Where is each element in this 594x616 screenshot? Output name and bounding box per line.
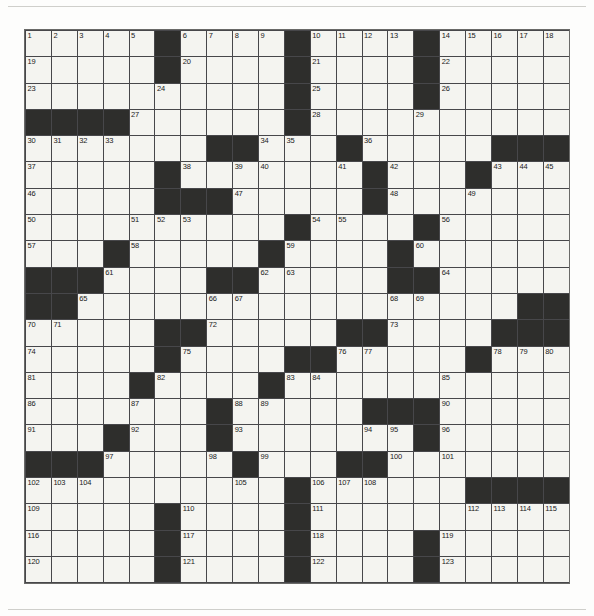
crossword-letter-cell[interactable] <box>440 346 466 372</box>
crossword-letter-cell[interactable] <box>181 451 207 477</box>
crossword-letter-cell[interactable] <box>233 83 259 109</box>
crossword-letter-cell[interactable]: 34 <box>259 136 285 162</box>
crossword-letter-cell[interactable]: 24 <box>155 83 181 109</box>
crossword-letter-cell[interactable] <box>543 215 569 241</box>
crossword-letter-cell[interactable]: 123 <box>440 556 466 582</box>
crossword-letter-cell[interactable] <box>259 83 285 109</box>
crossword-letter-cell[interactable]: 73 <box>388 320 414 346</box>
crossword-letter-cell[interactable] <box>233 57 259 83</box>
crossword-letter-cell[interactable] <box>517 215 543 241</box>
crossword-letter-cell[interactable]: 62 <box>259 267 285 293</box>
crossword-letter-cell[interactable]: 28 <box>310 109 336 135</box>
crossword-letter-cell[interactable]: 37 <box>26 162 52 188</box>
crossword-letter-cell[interactable]: 115 <box>543 504 569 530</box>
crossword-letter-cell[interactable]: 19 <box>26 57 52 83</box>
crossword-letter-cell[interactable] <box>414 320 440 346</box>
crossword-letter-cell[interactable]: 55 <box>336 215 362 241</box>
crossword-letter-cell[interactable]: 27 <box>129 109 155 135</box>
crossword-letter-cell[interactable] <box>466 425 492 451</box>
crossword-letter-cell[interactable] <box>284 293 310 319</box>
crossword-letter-cell[interactable] <box>336 267 362 293</box>
crossword-letter-cell[interactable] <box>362 293 388 319</box>
crossword-letter-cell[interactable] <box>517 188 543 214</box>
crossword-letter-cell[interactable] <box>103 320 129 346</box>
crossword-letter-cell[interactable]: 112 <box>466 504 492 530</box>
crossword-letter-cell[interactable] <box>543 530 569 556</box>
crossword-letter-cell[interactable] <box>440 241 466 267</box>
crossword-letter-cell[interactable] <box>362 267 388 293</box>
crossword-letter-cell[interactable] <box>259 556 285 582</box>
crossword-letter-cell[interactable]: 46 <box>26 188 52 214</box>
crossword-letter-cell[interactable] <box>103 478 129 504</box>
crossword-letter-cell[interactable]: 113 <box>492 504 518 530</box>
crossword-letter-cell[interactable] <box>336 188 362 214</box>
crossword-letter-cell[interactable]: 76 <box>336 346 362 372</box>
crossword-letter-cell[interactable] <box>336 57 362 83</box>
crossword-letter-cell[interactable]: 22 <box>440 57 466 83</box>
crossword-letter-cell[interactable] <box>259 346 285 372</box>
crossword-letter-cell[interactable] <box>259 478 285 504</box>
crossword-letter-cell[interactable]: 20 <box>181 57 207 83</box>
crossword-letter-cell[interactable] <box>492 399 518 425</box>
crossword-letter-cell[interactable]: 33 <box>103 136 129 162</box>
crossword-letter-cell[interactable] <box>466 556 492 582</box>
crossword-letter-cell[interactable]: 25 <box>310 83 336 109</box>
crossword-letter-cell[interactable] <box>77 346 103 372</box>
crossword-letter-cell[interactable] <box>336 241 362 267</box>
crossword-letter-cell[interactable]: 70 <box>26 320 52 346</box>
crossword-letter-cell[interactable] <box>181 83 207 109</box>
crossword-letter-cell[interactable] <box>181 399 207 425</box>
crossword-letter-cell[interactable] <box>77 162 103 188</box>
crossword-letter-cell[interactable]: 80 <box>543 346 569 372</box>
crossword-letter-cell[interactable]: 96 <box>440 425 466 451</box>
crossword-letter-cell[interactable] <box>543 556 569 582</box>
crossword-letter-cell[interactable] <box>259 57 285 83</box>
crossword-letter-cell[interactable]: 71 <box>51 320 77 346</box>
crossword-letter-cell[interactable] <box>517 425 543 451</box>
crossword-letter-cell[interactable] <box>259 188 285 214</box>
crossword-letter-cell[interactable] <box>129 136 155 162</box>
crossword-letter-cell[interactable] <box>388 372 414 398</box>
crossword-letter-cell[interactable] <box>155 241 181 267</box>
crossword-letter-cell[interactable]: 52 <box>155 215 181 241</box>
crossword-letter-cell[interactable]: 67 <box>233 293 259 319</box>
crossword-letter-cell[interactable] <box>103 399 129 425</box>
crossword-letter-cell[interactable]: 117 <box>181 530 207 556</box>
crossword-letter-cell[interactable] <box>310 136 336 162</box>
crossword-letter-cell[interactable] <box>51 162 77 188</box>
crossword-letter-cell[interactable]: 64 <box>440 267 466 293</box>
crossword-letter-cell[interactable] <box>336 83 362 109</box>
crossword-letter-cell[interactable]: 51 <box>129 215 155 241</box>
crossword-letter-cell[interactable]: 94 <box>362 425 388 451</box>
crossword-letter-cell[interactable]: 111 <box>310 504 336 530</box>
crossword-letter-cell[interactable]: 61 <box>103 267 129 293</box>
crossword-letter-cell[interactable] <box>440 109 466 135</box>
crossword-letter-cell[interactable] <box>492 215 518 241</box>
crossword-letter-cell[interactable] <box>77 425 103 451</box>
crossword-letter-cell[interactable]: 120 <box>26 556 52 582</box>
crossword-letter-cell[interactable] <box>543 57 569 83</box>
crossword-letter-cell[interactable]: 47 <box>233 188 259 214</box>
crossword-letter-cell[interactable] <box>129 83 155 109</box>
crossword-letter-cell[interactable] <box>310 451 336 477</box>
crossword-letter-cell[interactable] <box>517 267 543 293</box>
crossword-letter-cell[interactable] <box>492 57 518 83</box>
crossword-letter-cell[interactable] <box>362 109 388 135</box>
crossword-letter-cell[interactable]: 83 <box>284 372 310 398</box>
crossword-letter-cell[interactable] <box>517 451 543 477</box>
crossword-letter-cell[interactable] <box>543 399 569 425</box>
crossword-letter-cell[interactable] <box>233 504 259 530</box>
crossword-letter-cell[interactable]: 97 <box>103 451 129 477</box>
crossword-letter-cell[interactable]: 65 <box>77 293 103 319</box>
crossword-letter-cell[interactable]: 102 <box>26 478 52 504</box>
crossword-letter-cell[interactable] <box>543 425 569 451</box>
crossword-letter-cell[interactable] <box>77 504 103 530</box>
crossword-letter-cell[interactable]: 44 <box>517 162 543 188</box>
crossword-letter-cell[interactable] <box>440 478 466 504</box>
crossword-letter-cell[interactable]: 49 <box>466 188 492 214</box>
crossword-letter-cell[interactable] <box>414 188 440 214</box>
crossword-letter-cell[interactable]: 18 <box>543 31 569 57</box>
crossword-letter-cell[interactable] <box>336 399 362 425</box>
crossword-letter-cell[interactable]: 48 <box>388 188 414 214</box>
crossword-letter-cell[interactable] <box>51 215 77 241</box>
